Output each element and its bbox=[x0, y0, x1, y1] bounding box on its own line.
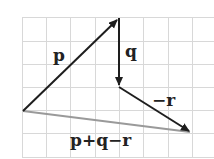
vector-sum bbox=[23, 111, 190, 132]
vector-diagram: p q −r p+q−r bbox=[0, 0, 214, 159]
label-q: q bbox=[125, 41, 137, 61]
label-sum: p+q−r bbox=[70, 130, 132, 150]
label-neg-r: −r bbox=[152, 90, 176, 110]
label-p: p bbox=[53, 45, 65, 65]
